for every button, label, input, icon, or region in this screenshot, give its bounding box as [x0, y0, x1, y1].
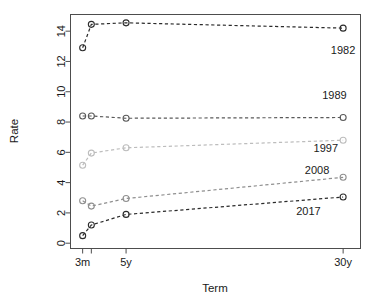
x-axis-title: Term [202, 282, 228, 294]
y-tick-label: 6 [56, 149, 68, 155]
y-tick-label: 8 [56, 119, 68, 125]
chart-canvas: 02468101214 3m5y30y 19821989199720082017… [0, 0, 379, 303]
series-label-1997: 1997 [314, 142, 338, 154]
yield-curve-chart: 02468101214 3m5y30y 19821989199720082017… [0, 0, 379, 303]
y-tick-label: 12 [56, 55, 68, 67]
series-label-2008: 2008 [305, 164, 329, 176]
y-tick-label: 4 [56, 180, 68, 186]
series-label-1982: 1982 [331, 44, 355, 56]
y-tick-label: 2 [56, 210, 68, 216]
x-tick-label: 5y [120, 256, 132, 268]
y-tick-label: 10 [56, 86, 68, 98]
y-axis-title: Rate [8, 119, 20, 143]
x-tick-label: 3m [75, 256, 90, 268]
y-tick-label: 14 [56, 25, 68, 37]
x-tick-label: 30y [334, 256, 352, 268]
series-label-1989: 1989 [322, 89, 346, 101]
y-tick-label: 0 [56, 240, 68, 246]
series-label-2017: 2017 [296, 205, 320, 217]
